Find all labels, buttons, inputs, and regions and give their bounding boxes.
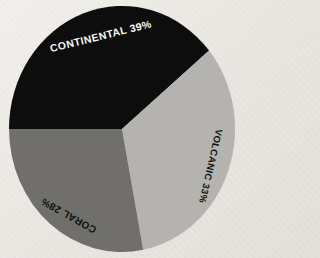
pie-chart-canvas: CONTINENTAL 39% VOLCANIC 33% CORAL 28% [0,0,242,258]
pie-chart: CONTINENTAL 39% VOLCANIC 33% CORAL 28% [0,0,242,258]
